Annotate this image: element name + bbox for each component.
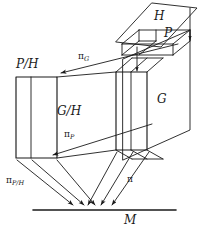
label-pi-p-over-h: πP/H [6, 176, 24, 186]
pi-g-subscript: G [84, 55, 89, 63]
label-pi-p: πP [64, 130, 74, 140]
p-over-h-box [16, 77, 57, 158]
pi-p-subscript: P [70, 133, 74, 141]
label-pi-g: πG [78, 52, 89, 62]
pi-ph-subscript: P/H [12, 179, 24, 187]
label-h: H [154, 10, 164, 22]
pi-glyph: π [127, 174, 133, 184]
label-m: M [124, 214, 136, 226]
label-g: G [157, 93, 167, 105]
label-p-over-h: P/H [16, 58, 39, 70]
bundle-diagram-figure: H P G P/H G/H M πG πP πP/H π [0, 0, 202, 231]
label-p: P [164, 27, 172, 39]
label-g-over-h: G/H [57, 105, 81, 117]
label-pi: π [127, 175, 133, 184]
p-box [122, 30, 190, 55]
